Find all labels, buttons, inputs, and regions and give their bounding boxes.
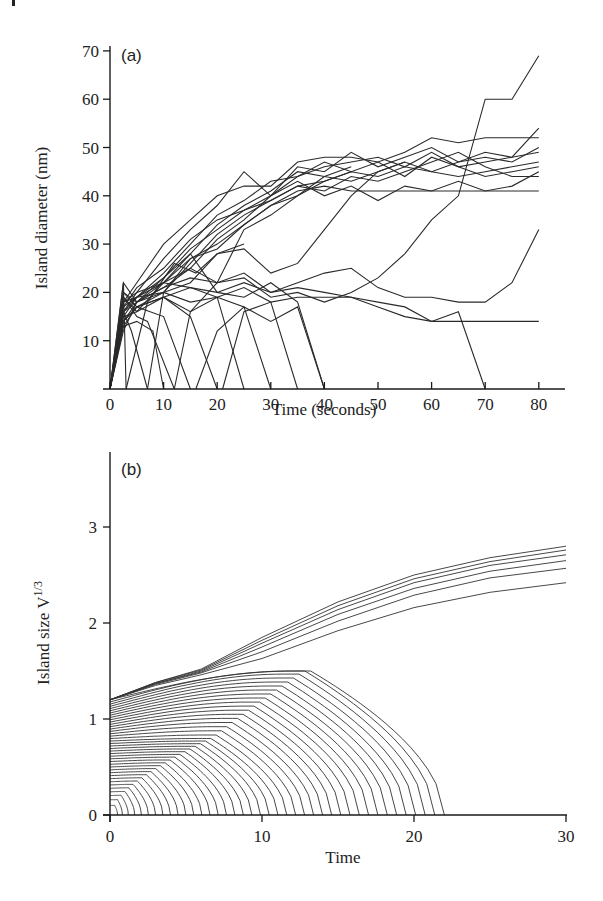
y-tick-label-b: 2 bbox=[89, 614, 98, 633]
figure: 0102030405060708010203040506070 (a) Time… bbox=[0, 0, 603, 901]
y-tick-label-a: 60 bbox=[82, 90, 99, 109]
y-axis-label-b: Island size V1/3 bbox=[31, 581, 53, 685]
shrinking-island-curve bbox=[110, 702, 359, 815]
chart-panel-a: 0102030405060708010203040506070 (a) Time… bbox=[32, 42, 565, 419]
x-tick-label-a: 10 bbox=[155, 395, 172, 414]
shrinking-island-curve bbox=[110, 698, 369, 815]
x-tick-label-a: 0 bbox=[106, 395, 115, 414]
x-tick-label-b: 20 bbox=[406, 827, 423, 846]
x-tick-label-b: 30 bbox=[558, 827, 575, 846]
x-tick-label-a: 60 bbox=[423, 395, 440, 414]
y-tick-label-b: 3 bbox=[89, 518, 98, 537]
x-tick-label-a: 80 bbox=[530, 395, 547, 414]
shrinking-island-curve bbox=[110, 766, 194, 815]
series-line bbox=[110, 230, 539, 389]
panel-label-a: (a) bbox=[121, 46, 142, 65]
x-axis-label-b: Time bbox=[325, 848, 360, 867]
y-tick-label-b: 1 bbox=[89, 710, 98, 729]
x-tick-label-a: 70 bbox=[477, 395, 494, 414]
x-tick-label-b: 0 bbox=[106, 827, 115, 846]
x-axis-label-a: Time (seconds) bbox=[272, 400, 377, 419]
series-line bbox=[110, 56, 539, 389]
shrinking-island-curve bbox=[110, 805, 118, 815]
y-tick-label-a: 20 bbox=[82, 283, 99, 302]
y-tick-label-a: 50 bbox=[82, 139, 99, 158]
shrinking-island-curve bbox=[110, 718, 323, 815]
y-tick-label-a: 70 bbox=[82, 42, 99, 61]
series-line bbox=[196, 307, 325, 389]
shrinking-island-curve bbox=[110, 763, 202, 815]
series-line bbox=[110, 128, 539, 389]
shrinking-island-curve bbox=[110, 800, 122, 815]
y-axis-label-b-text: Island size V bbox=[34, 596, 53, 685]
growing-island-curve bbox=[110, 546, 566, 700]
y-tick-label-a: 40 bbox=[82, 187, 99, 206]
y-axis-label-a: Island diameter (nm) bbox=[32, 147, 51, 290]
y-axis-label-b-superscript: 1/3 bbox=[31, 581, 45, 596]
panel-label-b: (b) bbox=[121, 460, 142, 479]
chart-panel-b: 01020300123 (b) Time Island size V1/3 bbox=[31, 452, 575, 867]
series-line bbox=[174, 172, 351, 389]
x-tick-label-a: 20 bbox=[209, 395, 226, 414]
series-line bbox=[110, 273, 485, 389]
x-tick-label-b: 10 bbox=[254, 827, 271, 846]
shrinking-island-curve bbox=[110, 671, 444, 815]
y-tick-label-a: 30 bbox=[82, 235, 99, 254]
island-size-curves bbox=[110, 546, 566, 815]
growing-island-curve bbox=[110, 583, 566, 700]
y-tick-label-b: 0 bbox=[89, 806, 98, 825]
island-diameter-lines bbox=[110, 56, 539, 389]
y-tick-label-a: 10 bbox=[82, 332, 99, 351]
